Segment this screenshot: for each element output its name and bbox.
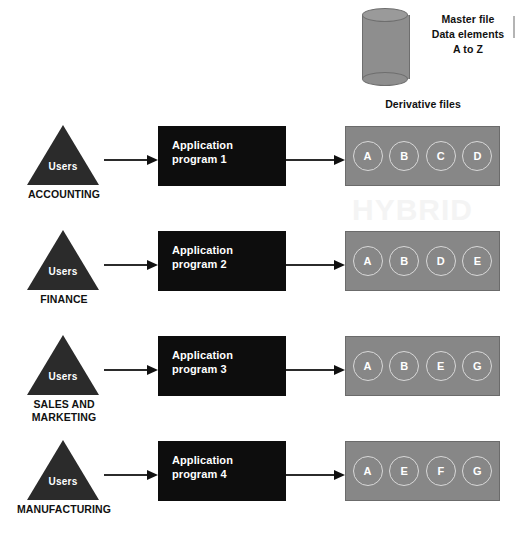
arrow-shaft [286,474,335,476]
application-program-box-4: Application program 4 [158,441,286,501]
data-element-circle: E [389,456,419,486]
arrow-shaft [286,159,335,161]
data-element-circle: E [426,351,456,381]
data-element-circle: D [462,141,492,171]
users-triangle-finance: Users [27,230,105,292]
arrow-users-to-program [104,155,158,165]
arrow-users-to-program [104,260,158,270]
data-element-circles: A B D E [346,232,499,290]
data-element-circles: A B E G [346,337,499,395]
derivative-files-box-2: A B D E [345,231,500,291]
data-element-circle: E [462,246,492,276]
data-element-circle: C [426,141,456,171]
arrow-users-to-program [104,365,158,375]
diagram-row-finance: Users FINANCE Application program 2 A B … [0,223,520,328]
arrow-shaft [104,264,148,266]
arrow-head [147,470,158,480]
application-program-box-2: Application program 2 [158,231,286,291]
arrow-head [334,470,345,480]
arrow-program-to-files [286,470,346,480]
application-program-label-4: Application program 4 [172,453,276,481]
data-element-circles: A E F G [346,442,499,500]
master-file-cylinder [362,8,410,86]
users-label: Users [27,476,99,487]
arrow-shaft [286,264,335,266]
department-label-manufacturing: MANUFACTURING [8,503,120,516]
program-line-2: program 2 [172,257,276,271]
data-element-circle: F [426,456,456,486]
derivative-files-box-4: A E F G [345,441,500,501]
arrow-head [334,260,345,270]
cylinder-bottom-ellipse [362,72,408,86]
data-element-circle: A [353,141,383,171]
program-line-1: Application [172,243,276,257]
cylinder-body [362,15,410,79]
data-element-circle: B [389,246,419,276]
arrow-head [147,155,158,165]
program-line-1: Application [172,453,276,467]
program-line-1: Application [172,348,276,362]
arrow-head [147,260,158,270]
arrow-shaft [104,369,148,371]
diagram-canvas: Master file Data elements A to Z Derivat… [0,0,520,541]
triangle-shape [27,440,99,500]
department-label-finance: FINANCE [8,293,120,306]
derivative-files-box-1: A B C D [345,126,500,186]
triangle-shape [27,125,99,185]
data-element-circles: A B C D [346,127,499,185]
department-label-sales-marketing: SALES AND MARKETING [8,398,120,424]
program-line-1: Application [172,138,276,152]
users-label: Users [27,161,99,172]
derivative-files-header: Derivative files [345,98,501,110]
arrow-shaft [104,159,148,161]
data-element-circle: B [389,141,419,171]
department-label-accounting: ACCOUNTING [8,188,120,201]
arrow-shaft [104,474,148,476]
program-line-2: program 4 [172,467,276,481]
derivative-files-box-3: A B E G [345,336,500,396]
data-element-circle: A [353,246,383,276]
master-caption-line-2: Data elements [420,27,516,42]
arrow-shaft [286,369,335,371]
users-triangle-accounting: Users [27,125,105,187]
data-element-circle: D [426,246,456,276]
application-program-label-2: Application program 2 [172,243,276,271]
data-element-circle: A [353,456,383,486]
users-triangle-sales-marketing: Users [27,335,105,397]
application-program-label-1: Application program 1 [172,138,276,166]
data-element-circle: B [389,351,419,381]
arrow-head [147,365,158,375]
users-label: Users [27,371,99,382]
diagram-row-accounting: Users ACCOUNTING Application program 1 A… [0,118,520,223]
master-file-caption: Master file Data elements A to Z [420,12,516,57]
application-program-box-3: Application program 3 [158,336,286,396]
master-caption-line-1: Master file [420,12,516,27]
master-caption-line-3: A to Z [420,42,516,57]
triangle-shape [27,335,99,395]
arrow-program-to-files [286,365,346,375]
program-line-2: program 1 [172,152,276,166]
arrow-users-to-program [104,470,158,480]
diagram-row-manufacturing: Users MANUFACTURING Application program … [0,433,520,538]
cylinder-top-ellipse [362,8,408,22]
application-program-label-3: Application program 3 [172,348,276,376]
users-triangle-manufacturing: Users [27,440,105,502]
data-element-circle: G [462,351,492,381]
program-line-2: program 3 [172,362,276,376]
arrow-program-to-files [286,155,346,165]
data-element-circle: G [462,456,492,486]
arrow-program-to-files [286,260,346,270]
diagram-row-sales-marketing: Users SALES AND MARKETING Application pr… [0,328,520,433]
triangle-shape [27,230,99,290]
arrow-head [334,365,345,375]
arrow-head [334,155,345,165]
users-label: Users [27,266,99,277]
data-element-circle: A [353,351,383,381]
application-program-box-1: Application program 1 [158,126,286,186]
